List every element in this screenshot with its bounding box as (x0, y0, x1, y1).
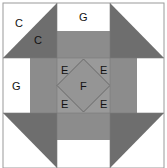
quilt-block-diagram: C C G G E E F E E (0, 0, 167, 168)
label-e-top-right: E (100, 64, 107, 76)
label-e-bottom-left: E (61, 98, 68, 110)
label-g-top: G (79, 11, 88, 23)
label-c-dark: C (34, 34, 42, 46)
middle-left-medium-rect (30, 58, 57, 113)
label-c-light: C (15, 17, 23, 29)
top-middle-medium-rect (57, 31, 110, 58)
label-g-left: G (12, 80, 21, 92)
label-f-center: F (80, 80, 87, 92)
label-e-top-left: E (61, 64, 68, 76)
bottom-middle-medium-rect (57, 113, 110, 140)
middle-right-medium-rect (110, 58, 137, 113)
label-e-bottom-right: E (100, 98, 107, 110)
